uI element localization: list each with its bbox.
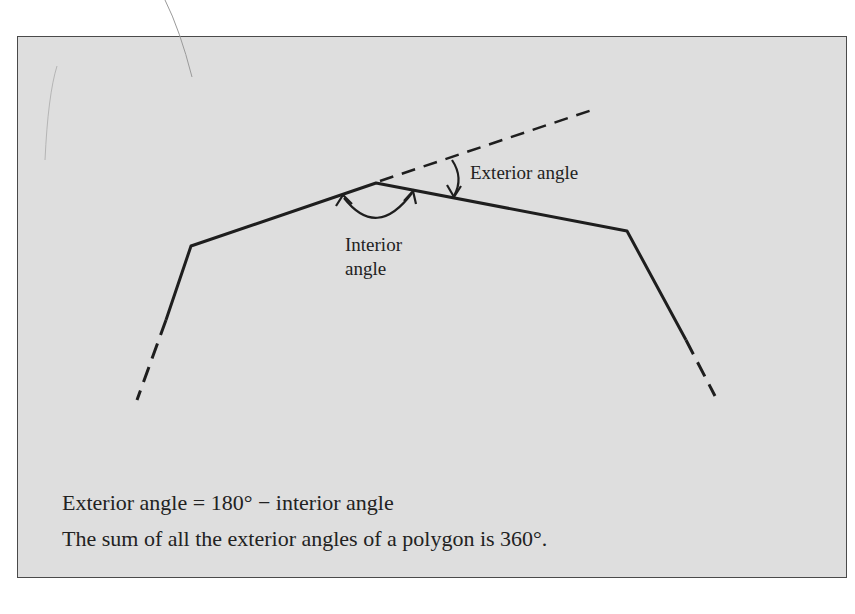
- interior-angle-label-line2: angle: [345, 257, 402, 281]
- interior-angle-label: Interior angle: [345, 233, 402, 281]
- exterior-arrowhead: [447, 185, 461, 197]
- polygon-edge-dashed-left: [137, 320, 166, 400]
- scan-mark: [45, 66, 57, 160]
- polygon-diagram: [0, 0, 855, 614]
- interior-angle-arc: [344, 193, 412, 218]
- polygon-edge-dashed-right: [686, 340, 715, 396]
- interior-angle-label-line1: Interior: [345, 233, 402, 257]
- exterior-angle-formula: Exterior angle = 180° − interior angle: [62, 490, 394, 516]
- polygon-edges: [166, 183, 686, 340]
- scan-mark: [165, 0, 192, 77]
- exterior-angle-sum-statement: The sum of all the exterior angles of a …: [62, 526, 547, 552]
- exterior-angle-label: Exterior angle: [470, 162, 578, 184]
